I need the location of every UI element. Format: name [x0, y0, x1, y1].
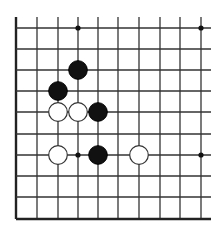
star-point-icon — [75, 152, 80, 157]
board-grid — [16, 17, 211, 219]
go-board[interactable] — [0, 0, 224, 231]
black-stone[interactable] — [89, 146, 108, 165]
black-stone[interactable] — [49, 82, 68, 101]
star-point-icon — [198, 152, 203, 157]
white-stone[interactable] — [49, 103, 68, 122]
star-point-icon — [198, 25, 203, 30]
black-stone[interactable] — [69, 61, 88, 80]
white-stone[interactable] — [49, 146, 68, 165]
white-stone[interactable] — [69, 103, 88, 122]
black-stone[interactable] — [89, 103, 108, 122]
star-point-icon — [75, 25, 80, 30]
white-stone[interactable] — [130, 146, 149, 165]
